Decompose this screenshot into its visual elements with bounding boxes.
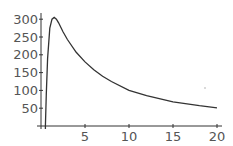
x-tick-label: 10 bbox=[121, 129, 138, 144]
x-tick-label: 5 bbox=[81, 129, 89, 144]
y-tick-label: 250 bbox=[13, 30, 38, 45]
y-tick-label: 150 bbox=[13, 65, 38, 80]
y-tick-label: 300 bbox=[13, 12, 38, 27]
line-chart: 50100150200250300 5101520 bbox=[0, 0, 233, 146]
y-tick-label: 200 bbox=[13, 47, 38, 62]
y-tick-label: 100 bbox=[13, 83, 38, 98]
x-tick-label: 20 bbox=[209, 129, 226, 144]
y-axis-ticks: 50100150200250300 bbox=[13, 12, 43, 116]
x-axis-ticks: 5101520 bbox=[81, 124, 225, 144]
x-tick-label: 15 bbox=[165, 129, 182, 144]
y-tick-label: 50 bbox=[21, 101, 38, 116]
axes bbox=[37, 13, 222, 129]
stray-dot bbox=[204, 87, 205, 88]
data-curve bbox=[45, 17, 217, 129]
